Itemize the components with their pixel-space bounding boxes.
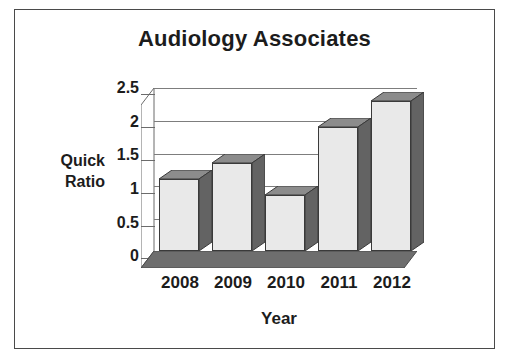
x-tick-label-2012: 2012 [373, 273, 411, 293]
y-tick-label: 1 [130, 180, 139, 198]
bar-front-face [159, 179, 199, 251]
bar-series [141, 88, 417, 268]
bar-side-face [199, 170, 212, 251]
y-axis-title: Quick Ratio [29, 150, 105, 192]
y-tick-label: 1.5 [117, 146, 139, 164]
bar-side-face [252, 154, 265, 251]
y-tick-label: 0.5 [117, 214, 139, 232]
chart-frame: Audiology Associates Quick Ratio 2.5 2 1… [14, 9, 495, 349]
plot-area [141, 88, 417, 268]
bar-front-face [265, 195, 305, 251]
y-tick-label: 0 [130, 247, 139, 265]
bar-2008[interactable] [159, 179, 199, 251]
bar-side-face [305, 186, 318, 251]
y-tick-label: 2 [130, 113, 139, 131]
x-tick-label-2010: 2010 [267, 273, 305, 293]
y-axis-tick-labels: 2.5 2 1.5 1 0.5 0 [99, 88, 139, 260]
x-axis-title: Year [141, 309, 417, 329]
x-tick-label-2008: 2008 [161, 273, 199, 293]
chart-title: Audiology Associates [15, 26, 494, 52]
x-axis-tick-labels: 2008 2009 2010 2011 2012 [141, 273, 431, 297]
bar-front-face [212, 163, 252, 251]
bar-2012[interactable] [371, 101, 411, 251]
y-axis-title-line-1: Quick [29, 150, 105, 171]
x-tick-label-2009: 2009 [214, 273, 252, 293]
y-axis-title-line-2: Ratio [29, 171, 105, 192]
bar-2009[interactable] [212, 163, 252, 251]
x-tick-label-2011: 2011 [321, 273, 358, 293]
bar-side-face [411, 92, 424, 251]
bar-2010[interactable] [265, 195, 305, 251]
bar-front-face [371, 101, 411, 251]
bar-side-face [358, 118, 371, 251]
y-tick-label: 2.5 [117, 79, 139, 97]
chart-screenshot: Audiology Associates Quick Ratio 2.5 2 1… [0, 0, 511, 360]
bar-front-face [318, 127, 358, 251]
bar-2011[interactable] [318, 127, 358, 251]
